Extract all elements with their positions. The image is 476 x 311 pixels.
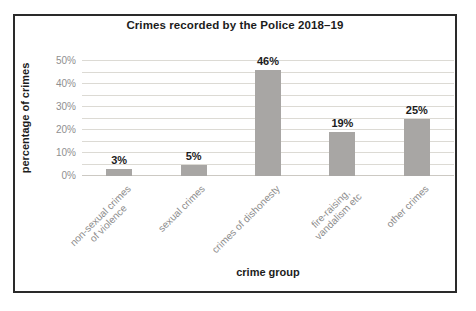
y-axis-title: percentage of crimes [19, 63, 31, 174]
chart-title: Crimes recorded by the Police 2018–19 [15, 19, 455, 31]
y-tick-label: 40% [32, 79, 76, 89]
y-tick-label: 50% [32, 56, 76, 66]
plot-area: 0%10%20%30%40%50%3%non-sexual crimesof v… [82, 61, 454, 176]
x-category-label: crimes of dishonesty [210, 183, 282, 255]
bar-value-label: 25% [387, 104, 447, 116]
bar-value-label: 5% [164, 150, 224, 162]
y-tick-label: 30% [32, 102, 76, 112]
x-category-label: non-sexual crimesof violence [68, 183, 141, 256]
bar-4 [329, 132, 355, 176]
bar-3 [255, 70, 281, 176]
bar-value-label: 19% [312, 117, 372, 129]
bar-2 [181, 165, 207, 177]
bar-value-label: 46% [238, 55, 298, 67]
chart-frame: Crimes recorded by the Police 2018–19 pe… [13, 14, 457, 293]
x-category-label: fire-raising,vandalism etc [305, 183, 364, 242]
y-tick-label: 20% [32, 125, 76, 135]
x-category-label: sexual crimes [156, 183, 207, 234]
y-tick-label: 0% [32, 171, 76, 181]
bar-value-label: 3% [89, 154, 149, 166]
bar-5 [404, 119, 430, 177]
bar-1 [106, 169, 132, 176]
y-tick-label: 10% [32, 148, 76, 158]
x-category-label: other crimes [384, 183, 431, 230]
x-axis-title: crime group [82, 266, 454, 278]
